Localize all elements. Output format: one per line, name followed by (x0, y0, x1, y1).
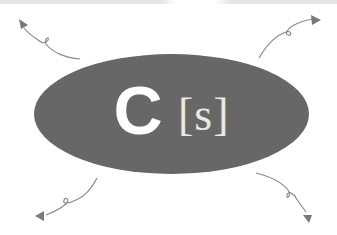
arrow-bottom-left-icon (35, 178, 97, 221)
arrow-bottom-right-icon (256, 173, 312, 223)
arrows-layer (0, 0, 337, 235)
arrow-top-right-icon (259, 15, 321, 58)
arrow-top-left-icon (19, 19, 80, 59)
